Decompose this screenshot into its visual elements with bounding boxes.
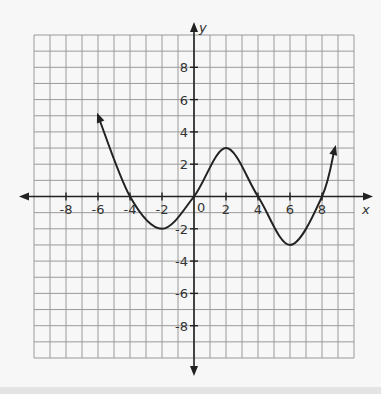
y-tick-label: 6 (180, 93, 188, 108)
y-tick-label: -6 (175, 286, 188, 301)
bottom-band (0, 387, 381, 394)
x-tick-label: 6 (286, 202, 294, 217)
y-axis-label: y (198, 20, 207, 35)
y-tick-label: 2 (180, 157, 188, 172)
y-tick-label: 8 (180, 60, 188, 75)
origin-label: 0 (197, 200, 205, 215)
y-tick-label: -2 (175, 222, 188, 237)
x-tick-label: 2 (222, 202, 230, 217)
x-tick-label: -6 (92, 202, 105, 217)
x-axis-label: x (361, 202, 370, 217)
coordinate-plane: -8-6-4-224688642-2-4-6-8 x y 0 (0, 0, 381, 394)
curve-arrowheads (97, 113, 337, 156)
x-tick-label: -8 (60, 202, 73, 217)
x-tick-label: -2 (156, 202, 169, 217)
x-tick-label: 4 (254, 202, 262, 217)
y-tick-label: 4 (180, 125, 188, 140)
y-tick-label: -8 (175, 319, 188, 334)
y-tick-label: -4 (175, 254, 188, 269)
